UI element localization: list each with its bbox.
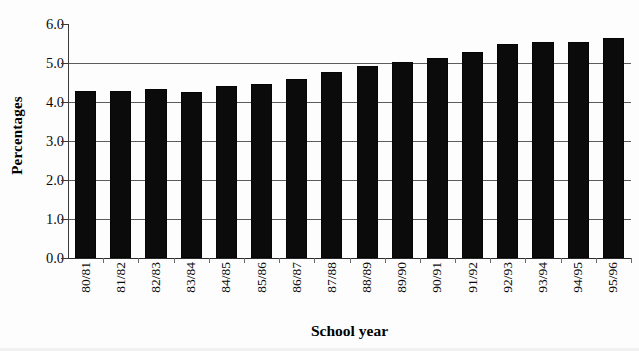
- bar: [181, 92, 202, 258]
- y-axis-title-label: Percentages: [9, 96, 26, 175]
- y-axis-tick-mark: [61, 219, 69, 220]
- x-axis-tick-label-text: 90/91: [429, 262, 445, 293]
- x-axis-tick-label-text: 88/89: [359, 262, 375, 293]
- bar: [462, 52, 483, 258]
- x-axis-tick-labels: 80/8181/8282/8383/8484/8585/8686/8787/88…: [68, 262, 631, 320]
- y-axis-tick-label: 1.0: [26, 212, 64, 226]
- plot-area: [68, 24, 631, 258]
- x-axis-tick-label-text: 87/88: [324, 262, 340, 293]
- x-axis-tick-label-text: 93/94: [535, 262, 551, 293]
- x-axis-tick-label: 95/96: [585, 262, 639, 318]
- bar: [216, 86, 237, 258]
- bar: [357, 66, 378, 258]
- bars-layer: [68, 24, 631, 258]
- y-axis-tick-mark: [61, 141, 69, 142]
- x-axis-tick-label-text: 86/87: [289, 262, 305, 293]
- y-axis-tick-label: 4.0: [26, 95, 64, 109]
- x-axis-tick-label-text: 91/92: [465, 262, 481, 293]
- y-axis-tick-label: 6.0: [26, 17, 64, 31]
- x-axis-tick-label-text: 80/81: [78, 262, 94, 293]
- bar: [75, 91, 96, 258]
- y-axis-tick-labels: 6.05.04.03.02.01.00.0: [26, 0, 64, 280]
- bar: [568, 42, 589, 258]
- y-axis-tick-mark: [61, 180, 69, 181]
- bar: [497, 44, 518, 258]
- bar: [321, 72, 342, 258]
- x-axis-tick-label-text: 82/83: [148, 262, 164, 293]
- x-axis-title: School year: [68, 322, 631, 340]
- x-axis-tick-label-text: 83/84: [183, 262, 199, 293]
- bar: [110, 91, 131, 258]
- y-axis-tick-mark: [61, 102, 69, 103]
- bar-chart: Percentages 6.05.04.03.02.01.00.0 80/818…: [0, 0, 639, 351]
- y-axis-tick-label: 3.0: [26, 134, 64, 148]
- x-axis-tick-label-text: 85/86: [254, 262, 270, 293]
- bar: [392, 62, 413, 258]
- x-axis-tick-label-text: 95/96: [605, 262, 621, 293]
- x-axis-tick-label-text: 84/85: [218, 262, 234, 293]
- y-axis-tick-label: 2.0: [26, 173, 64, 187]
- y-axis-tick-mark: [61, 63, 69, 64]
- bar: [427, 58, 448, 258]
- y-axis-tick-label: 5.0: [26, 56, 64, 70]
- x-axis-tick-label-text: 89/90: [394, 262, 410, 293]
- bar: [251, 84, 272, 258]
- x-axis-tick-label-text: 81/82: [113, 262, 129, 293]
- x-axis-tick-label-text: 92/93: [500, 262, 516, 293]
- bar: [145, 89, 166, 258]
- bar: [286, 79, 307, 258]
- bar: [532, 42, 553, 258]
- y-axis-tick-mark: [61, 258, 69, 259]
- y-axis-tick-mark: [61, 24, 69, 25]
- bar: [603, 38, 624, 258]
- x-axis-tick-label-text: 94/95: [570, 262, 586, 293]
